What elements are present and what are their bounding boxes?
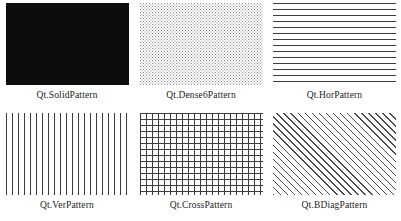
pattern-label-ver: Qt.VerPattern <box>40 199 94 211</box>
pattern-swatch-bdiag <box>273 113 396 195</box>
pattern-label-cross: Qt.CrossPattern <box>170 199 233 211</box>
swatch-container-cross <box>134 110 268 195</box>
swatch-container-dense6 <box>134 0 268 85</box>
pattern-cell-ver: Qt.VerPattern <box>0 110 134 221</box>
swatch-container-bdiag <box>268 110 401 195</box>
swatch-container-ver <box>0 110 134 195</box>
pattern-cell-solid: Qt.SolidPattern <box>0 0 134 110</box>
swatch-container-solid <box>0 0 134 85</box>
swatch-container-hor <box>268 0 401 85</box>
pattern-swatch-ver <box>6 113 129 195</box>
pattern-swatch-dense6 <box>140 3 263 85</box>
pattern-label-solid: Qt.SolidPattern <box>36 89 97 101</box>
pattern-swatch-hor <box>273 3 396 85</box>
pattern-swatch-cross <box>140 113 263 195</box>
pattern-gallery: Qt.SolidPattern Qt.Dense6Pattern Qt.HorP… <box>0 0 401 221</box>
pattern-label-hor: Qt.HorPattern <box>307 89 363 101</box>
pattern-cell-cross: Qt.CrossPattern <box>134 110 268 221</box>
pattern-label-dense6: Qt.Dense6Pattern <box>166 89 236 101</box>
pattern-cell-dense6: Qt.Dense6Pattern <box>134 0 268 110</box>
pattern-label-bdiag: Qt.BDiagPattern <box>302 199 368 211</box>
pattern-cell-hor: Qt.HorPattern <box>268 0 401 110</box>
pattern-swatch-solid <box>6 3 129 85</box>
pattern-cell-bdiag: Qt.BDiagPattern <box>268 110 401 221</box>
